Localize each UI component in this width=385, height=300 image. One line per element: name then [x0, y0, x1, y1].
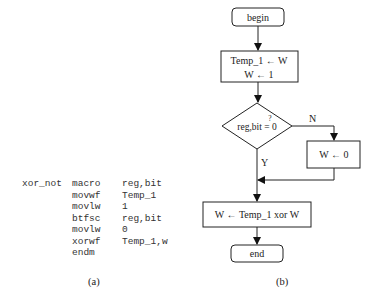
no-label: N [309, 113, 316, 124]
end-label: end [250, 248, 264, 259]
no-branch-label: W ← 0 [319, 149, 348, 160]
init-line1: Temp_1 ← W [231, 55, 288, 66]
xor-step-label: W ← Temp_1 xor W [215, 209, 300, 220]
arrow-no-branch [292, 126, 334, 140]
begin-label: begin [247, 12, 269, 23]
flowchart: begin Temp_1 ← W W ← 1 reg,bit = 0 ? N Y… [0, 0, 385, 300]
arrow-merge [258, 168, 334, 180]
init-line2: W ← 1 [244, 69, 273, 80]
yes-label: Y [261, 157, 268, 168]
decision-label: reg,bit = 0 [237, 122, 277, 132]
